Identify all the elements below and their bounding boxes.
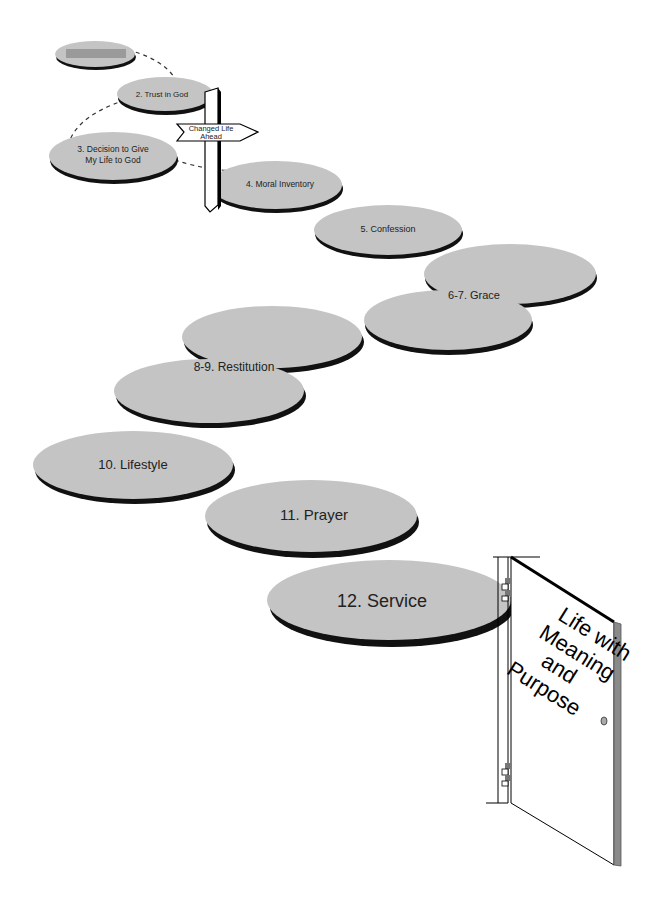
stepping-stones-diagram: 2. Trust in God 3. Decision to Give My L…	[0, 0, 655, 905]
step-10-label: 10. Lifestyle	[98, 457, 167, 472]
hinge-bottom	[502, 763, 511, 786]
step-4-label: 4. Moral Inventory	[246, 179, 315, 189]
step-1-label-placeholder	[66, 49, 126, 58]
step-3-label-line1: 3. Decision to Give	[77, 144, 149, 154]
door-knob	[601, 717, 607, 725]
stone-step-6-7: 6-7. Grace	[364, 244, 597, 355]
step-11-label: 11. Prayer	[280, 506, 348, 523]
stone-step-8-9: 8-9. Restitution	[114, 306, 364, 428]
stone-step-11: 11. Prayer	[205, 480, 419, 558]
step-3-label-line2: My Life to God	[85, 155, 141, 165]
step-12-label: 12. Service	[337, 591, 427, 611]
stone-step-10: 10. Lifestyle	[33, 431, 235, 504]
signpost-line2: Ahead	[200, 132, 222, 141]
step-5-label: 5. Confession	[360, 224, 415, 234]
stone-step-1	[55, 41, 136, 70]
step-8-9-label: 8-9. Restitution	[194, 360, 275, 374]
stone-step-2: 2. Trust in God	[117, 77, 214, 115]
open-door: Life with Meaning and Purpose	[486, 557, 636, 866]
stone-step-5: 5. Confession	[314, 205, 463, 259]
stone-step-12: 12. Service	[267, 560, 514, 647]
step-2-label: 2. Trust in God	[136, 90, 188, 99]
stone-step-4: 4. Moral Inventory	[210, 161, 343, 213]
step-6-7-label: 6-7. Grace	[448, 289, 500, 301]
stone-step-3: 3. Decision to Give My Life to God	[49, 132, 178, 184]
